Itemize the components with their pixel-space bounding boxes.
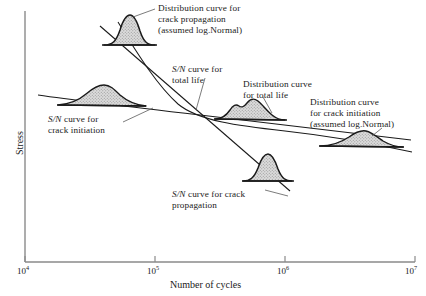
annotation-line: for total life	[243, 90, 312, 101]
tick-mantissa: 10	[405, 266, 414, 276]
plot-canvas	[0, 0, 426, 296]
annotation-line: Distribution curve for	[158, 3, 242, 14]
annotation-line: propagation	[172, 200, 245, 211]
tick-exponent: 4	[26, 264, 29, 271]
tick-mantissa: 10	[277, 266, 286, 276]
x-axis-title: Number of cycles	[170, 279, 241, 290]
leader-crack-prop-dist	[133, 9, 155, 17]
tick-exponent: 6	[286, 264, 289, 271]
annotation-sn-curve-total-life: S/N curve for total life	[172, 64, 222, 86]
annotation-total-life-distribution: Distribution curve for total life	[243, 79, 312, 101]
annotation-line: Distribution curve	[310, 97, 394, 108]
distribution-crack-propagation-lower	[242, 154, 294, 181]
distribution-total-life	[214, 99, 287, 120]
x-axis-ticks	[25, 256, 415, 262]
distribution-crack-initiation-right	[319, 131, 404, 147]
annotation-line: crack propagation	[158, 14, 242, 25]
annotation-line: total life	[172, 75, 222, 86]
distribution-crack-initiation-left	[57, 85, 146, 106]
leader-sn-crack-init	[123, 108, 153, 122]
annotation-sn-curve-crack-propagation: S/N curve for crack propagation	[172, 189, 245, 211]
tick-exponent: 5	[156, 264, 159, 271]
annotation-sn-curve-crack-initiation: S/N curve for crack initiation	[48, 114, 105, 136]
tick-exponent: 7	[414, 264, 417, 271]
annotation-line-rest: curve for	[62, 114, 99, 124]
tick-mantissa: 10	[17, 266, 26, 276]
annotation-line: for crack initiation	[310, 108, 394, 119]
annotation-line: Distribution curve	[243, 79, 312, 90]
annotation-line-rest: curve for crack	[186, 189, 246, 199]
annotation-crack-initiation-distribution: Distribution curve for crack initiation …	[310, 97, 394, 131]
annotation-line: (assumed log.Normal)	[158, 25, 242, 36]
annotation-line: S/N curve for crack	[172, 189, 245, 200]
x-tick-label-1e5: 105	[147, 266, 159, 276]
leader-sn-crack-prop	[265, 190, 288, 196]
annotation-line: crack initiation	[48, 125, 105, 136]
x-tick-label-1e7: 107	[405, 266, 417, 276]
sn-fatigue-diagram: Distribution curve for crack propagation…	[0, 0, 426, 296]
distribution-crack-propagation-top	[102, 15, 157, 45]
annotation-line: (assumed log.Normal)	[310, 119, 394, 130]
x-tick-label-1e4: 104	[17, 266, 29, 276]
annotation-line-rest: curve for	[186, 64, 223, 74]
annotation-line: S/N curve for	[48, 114, 105, 125]
tick-mantissa: 10	[147, 266, 156, 276]
annotation-crack-propagation-distribution: Distribution curve for crack propagation…	[158, 3, 242, 37]
x-tick-label-1e6: 106	[277, 266, 289, 276]
y-axis-title: Stress	[14, 131, 25, 155]
annotation-line: S/N curve for	[172, 64, 222, 75]
